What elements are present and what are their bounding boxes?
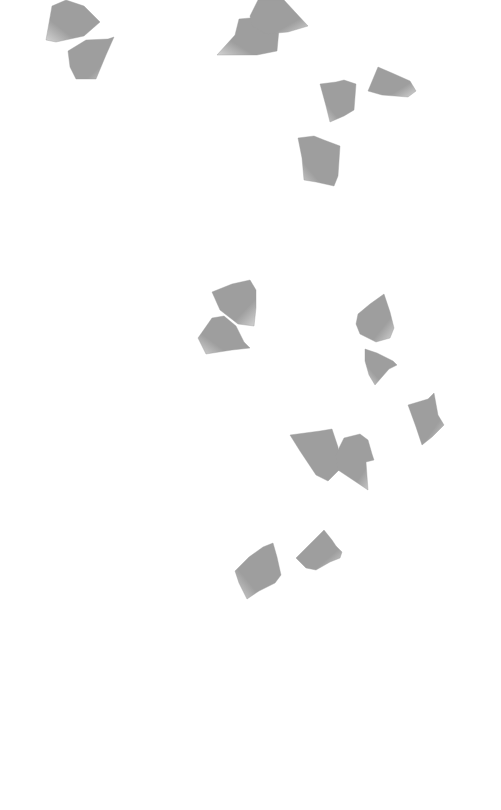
petal-icon <box>66 37 114 80</box>
petal-icon <box>296 530 344 572</box>
petal-icon <box>356 294 396 344</box>
petal-icon <box>298 136 342 188</box>
petal-shape <box>296 530 344 572</box>
petal-shape <box>196 316 250 354</box>
petals-canvas <box>0 0 501 810</box>
petal-icon <box>196 316 250 354</box>
petal-icon <box>368 67 416 97</box>
petal-shape <box>356 294 396 344</box>
petal-shape <box>235 543 283 599</box>
petal-shape <box>246 0 308 35</box>
petal-shape <box>66 37 114 80</box>
petal-icon <box>363 349 398 387</box>
petal-shape <box>408 393 444 447</box>
petal-icon <box>246 0 308 35</box>
petal-icon <box>408 393 444 447</box>
petal-shape <box>363 349 398 387</box>
petal-icon <box>336 434 374 490</box>
petal-icon <box>320 80 357 123</box>
petal-icon <box>235 543 283 599</box>
petal-shape <box>336 434 374 490</box>
petal-shape <box>298 136 342 188</box>
petal-shape <box>368 67 416 97</box>
petal-shape <box>320 80 357 123</box>
